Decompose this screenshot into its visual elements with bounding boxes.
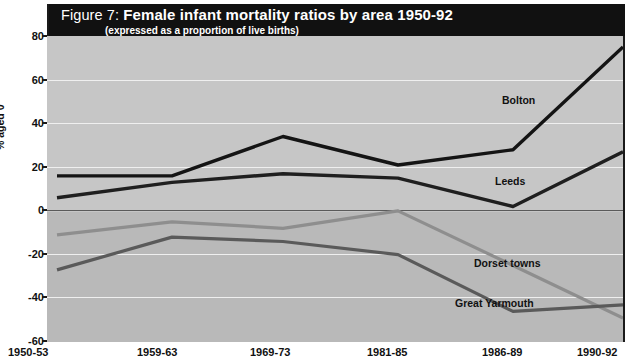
series-line-great-yarmouth [57,237,623,311]
y-tick-20: 20 [4,161,44,173]
figure-subtitle: (expressed as a proportion of live birth… [105,25,299,36]
x-tick-1981-85: 1981-85 [367,346,407,358]
series-label-leeds: Leeds [495,175,525,187]
figure-heading: Figure 7: Female infant mortality ratios… [61,6,453,23]
x-tick-1950-53: 1950-53 [8,346,48,358]
figure-title: Female infant mortality ratios by area 1… [123,6,453,23]
figure-root: Figure 7: Female infant mortality ratios… [0,0,627,363]
y-tick-0: 0 [4,204,44,216]
x-tick-1990-92: 1990-92 [577,346,617,358]
series-label-great-yarmouth: Great Yarmouth [455,297,534,309]
series-label-bolton: Bolton [502,94,535,106]
y-tick-80: 80 [4,30,44,42]
series-lines [47,36,625,342]
y-tick-40: 40 [4,117,44,129]
series-line-leeds [57,152,623,207]
series-label-dorset-towns: Dorset towns [474,257,541,269]
y-tick-neg20: -20 [4,248,44,260]
y-tick-neg40: -40 [4,291,44,303]
x-tick-1969-73: 1969-73 [250,346,290,358]
series-line-bolton [57,47,623,176]
plot-area: Bolton Leeds Dorset towns Great Yarmouth [47,36,625,342]
x-tick-1986-89: 1986-89 [482,346,522,358]
figure-number: Figure 7: [61,7,119,23]
x-tick-1959-63: 1959-63 [137,346,177,358]
y-tick-60: 60 [4,74,44,86]
